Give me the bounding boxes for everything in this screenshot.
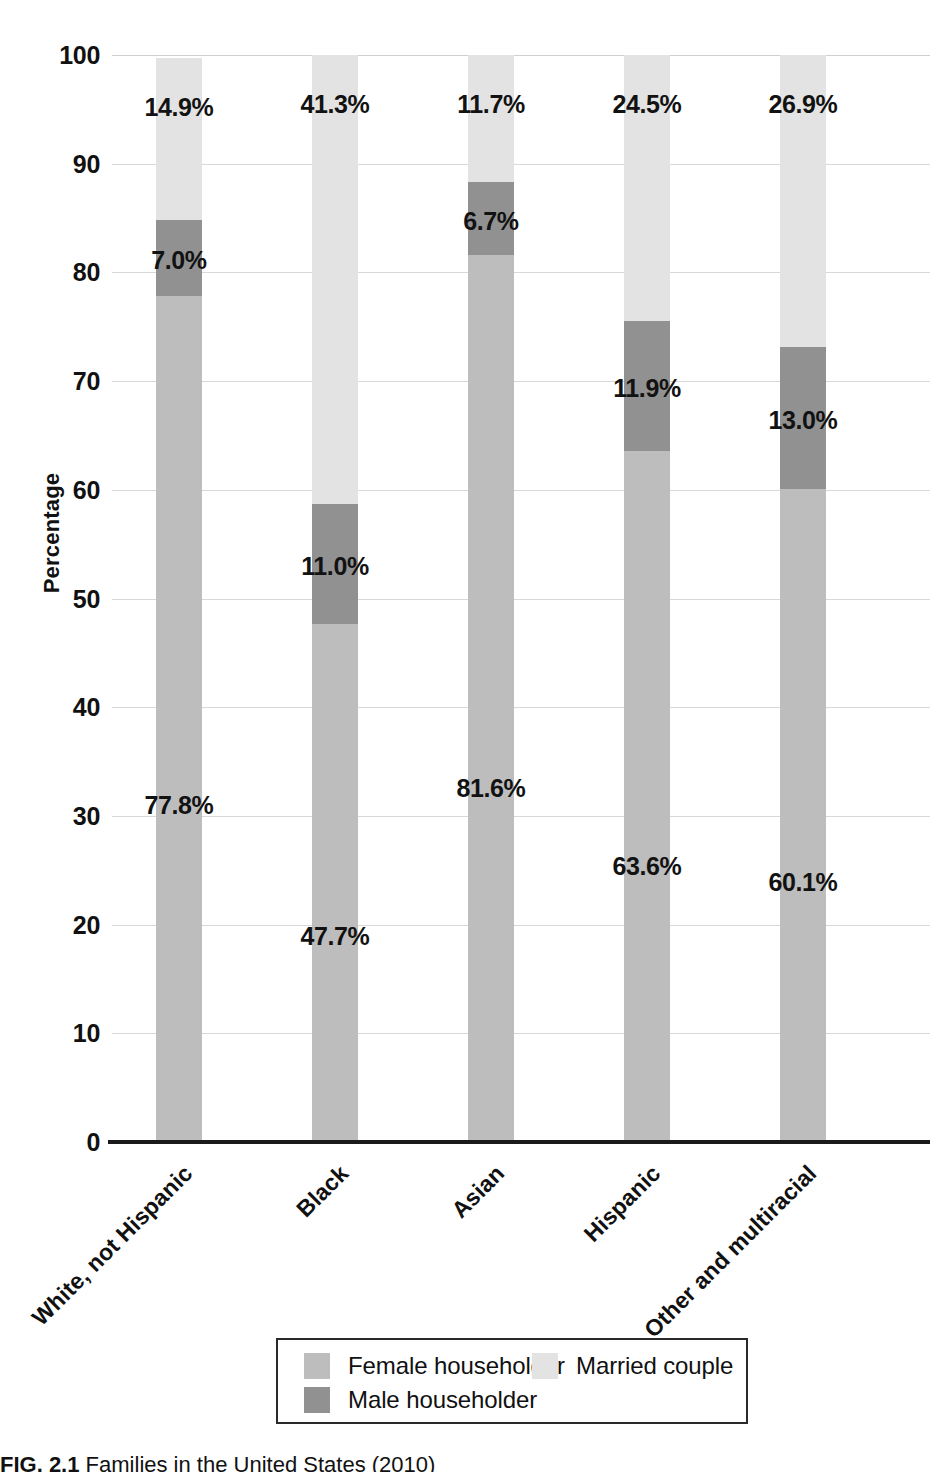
- x-axis-category-labels: White, not HispanicBlackAsianHispanicOth…: [0, 1152, 942, 1332]
- legend-label: Male householder: [348, 1386, 537, 1414]
- bar-segment[interactable]: [156, 296, 202, 1142]
- bar-value-label: 24.5%: [613, 90, 682, 119]
- legend-item[interactable]: Male householder: [304, 1386, 537, 1414]
- y-tick-label: 20: [36, 910, 100, 939]
- bar-value-label: 60.1%: [769, 868, 838, 897]
- legend-swatch: [304, 1387, 330, 1413]
- y-tick-label: 40: [36, 693, 100, 722]
- bar-segment[interactable]: [624, 451, 670, 1142]
- bar-value-label: 77.8%: [145, 791, 214, 820]
- x-axis-baseline: [108, 1140, 930, 1144]
- bar-value-label: 6.7%: [463, 207, 518, 236]
- bar-value-label: 41.3%: [301, 90, 370, 119]
- legend-item[interactable]: Married couple: [532, 1352, 733, 1380]
- bar-value-label: 11.0%: [301, 552, 369, 581]
- bar-segment[interactable]: [156, 58, 202, 220]
- y-tick-label: 80: [36, 258, 100, 287]
- bar-segment[interactable]: [312, 624, 358, 1142]
- y-tick-label: 10: [36, 1019, 100, 1048]
- bar-value-label: 47.7%: [301, 922, 370, 951]
- legend: Female householderMarried coupleMale hou…: [276, 1338, 748, 1424]
- bar-group[interactable]: 60.1%13.0%26.9%: [780, 55, 826, 1142]
- bar-value-label: 11.9%: [613, 374, 681, 403]
- figure-number: FIG. 2.1: [0, 1452, 79, 1472]
- legend-swatch: [304, 1353, 330, 1379]
- figure-page: 0102030405060708090100 Percentage 77.8%7…: [0, 0, 942, 1472]
- bar-value-label: 26.9%: [769, 90, 838, 119]
- bar-segment[interactable]: [780, 489, 826, 1142]
- y-axis-title: Percentage: [39, 443, 65, 623]
- y-tick-label: 30: [36, 801, 100, 830]
- bar-segment[interactable]: [468, 255, 514, 1142]
- bar-value-label: 11.7%: [457, 90, 525, 119]
- bar-group[interactable]: 47.7%11.0%41.3%: [312, 55, 358, 1142]
- bar-value-label: 13.0%: [769, 406, 838, 435]
- bar-value-label: 14.9%: [145, 93, 214, 122]
- plot-area: 77.8%7.0%14.9%47.7%11.0%41.3%81.6%6.7%11…: [112, 55, 930, 1142]
- legend-swatch: [532, 1353, 558, 1379]
- bar-value-label: 7.0%: [151, 246, 206, 275]
- legend-label: Married couple: [576, 1352, 733, 1380]
- figure-caption: FIG. 2.1 Families in the United States (…: [0, 1452, 942, 1472]
- bar-segment[interactable]: [312, 55, 358, 504]
- y-tick-label: 90: [36, 149, 100, 178]
- bar-value-label: 63.6%: [613, 852, 682, 881]
- figure-caption-text: Families in the United States (2010): [86, 1452, 436, 1472]
- bar-group[interactable]: 63.6%11.9%24.5%: [624, 55, 670, 1142]
- legend-item[interactable]: Female householder: [304, 1352, 565, 1380]
- y-tick-label: 100: [36, 41, 100, 70]
- bar-value-label: 81.6%: [457, 774, 526, 803]
- y-tick-label: 70: [36, 367, 100, 396]
- bar-group[interactable]: 77.8%7.0%14.9%: [156, 55, 202, 1142]
- bar-group[interactable]: 81.6%6.7%11.7%: [468, 55, 514, 1142]
